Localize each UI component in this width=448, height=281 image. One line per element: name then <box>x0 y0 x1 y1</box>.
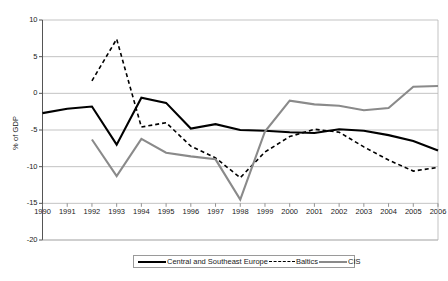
legend-swatch-solid <box>138 261 166 263</box>
legend-swatch-solid <box>319 261 347 263</box>
plot-area <box>0 0 448 281</box>
chart-container: % of GDP 1050-5-10-15-20 199019911992199… <box>0 0 448 281</box>
chart-legend: Central and Southeast EuropeBalticsCIS <box>133 255 355 268</box>
legend-label: Central and Southeast Europe <box>166 257 269 266</box>
legend-swatch-dashed <box>269 261 295 262</box>
series-line-0 <box>43 98 439 151</box>
series-line-2 <box>92 86 438 200</box>
legend-label: CIS <box>347 257 362 266</box>
legend-item: Baltics <box>269 257 319 266</box>
legend-label: Baltics <box>295 257 319 266</box>
legend-item: Central and Southeast Europe <box>138 257 269 266</box>
legend-item: CIS <box>319 257 362 266</box>
